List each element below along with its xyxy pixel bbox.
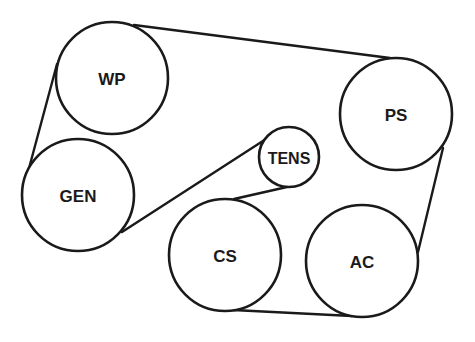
pulley-label-gen: GEN [60,187,97,206]
pulley-label-wp: WP [98,70,125,89]
pulley-tens: TENS [259,127,319,187]
pulley-label-cs: CS [213,247,237,266]
pulley-ps: PS [340,58,452,170]
pulley-cs: CS [169,199,281,311]
pulley-gen: GEN [22,139,134,251]
belt-tens-cs [234,187,287,199]
pulley-label-ps: PS [385,106,408,125]
pulley-label-ac: AC [350,253,375,272]
pulley-ac: AC [306,205,418,317]
pulley-wp: WP [56,22,168,134]
pulley-label-tens: TENS [268,150,311,167]
belt-wp-ps [134,25,390,58]
belt-routing-diagram: WP GEN TENS PS CS AC [0,0,475,342]
